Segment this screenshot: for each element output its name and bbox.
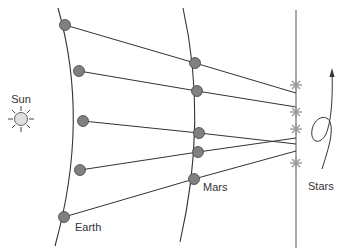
mars-dot — [190, 58, 201, 69]
mars-dot — [194, 128, 205, 139]
sight-line-4 — [80, 138, 296, 170]
mars-dot — [193, 147, 204, 158]
earth-dot — [78, 116, 89, 127]
sight-line-5 — [64, 151, 296, 217]
earth-label: Earth — [75, 221, 101, 233]
stars-label: Stars — [308, 180, 334, 192]
star-icon — [290, 79, 302, 91]
earth-dot — [60, 20, 71, 31]
star-icon — [290, 106, 302, 118]
mars-dot — [189, 174, 200, 185]
earth-dot — [59, 212, 70, 223]
sun-label: Sun — [11, 93, 31, 105]
sight-lines — [64, 25, 296, 217]
sight-line-2 — [79, 71, 296, 107]
retrograde-loop-icon — [312, 68, 335, 169]
sun-icon — [8, 106, 34, 132]
sight-line-3 — [83, 121, 296, 144]
arrow-head-icon — [330, 68, 335, 77]
star-icon — [290, 157, 302, 169]
mars-positions — [189, 58, 205, 185]
earth-dot — [74, 66, 85, 77]
retrograde-motion-diagram: Sun Earth Mars Stars — [0, 0, 340, 251]
mars-dot — [192, 86, 203, 97]
sight-line-1 — [65, 25, 296, 93]
star-icon — [290, 123, 302, 135]
earth-orbit-curve — [55, 8, 73, 246]
mars-orbit-curve — [180, 8, 195, 242]
earth-dot — [75, 165, 86, 176]
mars-label: Mars — [203, 181, 228, 193]
